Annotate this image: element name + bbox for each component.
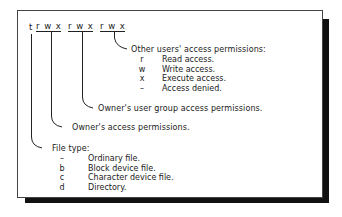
item-desc: Access denied. <box>162 84 222 94</box>
other-connector <box>115 32 128 49</box>
file-type-char: t <box>29 22 32 32</box>
owner-connector <box>52 32 63 127</box>
item-key: x <box>130 74 154 84</box>
item-desc: Write access. <box>162 65 215 75</box>
list-item: xExecute access. <box>130 74 226 84</box>
item-key: – <box>50 154 74 164</box>
item-desc: Block device file. <box>88 164 156 174</box>
item-desc: Execute access. <box>162 74 226 84</box>
list-item: –Access denied. <box>130 84 226 94</box>
other-perm-group: r w x <box>100 22 125 32</box>
list-item: dDirectory. <box>50 183 174 193</box>
item-desc: Read access. <box>162 55 214 65</box>
list-item: rRead access. <box>130 55 226 65</box>
list-item: wWrite access. <box>130 65 226 75</box>
file-type-title: File type: <box>52 144 90 154</box>
group-connector <box>83 32 94 108</box>
file-type-connector <box>32 34 43 148</box>
item-key: r <box>130 55 154 65</box>
item-key: w <box>130 65 154 75</box>
list-item: bBlock device file. <box>50 164 174 174</box>
file-type-list: –Ordinary file. bBlock device file. cCha… <box>50 154 174 192</box>
list-item: cCharacter device file. <box>50 173 174 183</box>
item-desc: Directory. <box>88 183 126 193</box>
group-perm-group: r w x <box>68 22 93 32</box>
owner-label: Owner's access permissions. <box>72 123 190 133</box>
item-key: b <box>50 164 74 174</box>
item-key: – <box>130 84 154 94</box>
item-key: d <box>50 183 74 193</box>
item-key: c <box>50 173 74 183</box>
item-desc: Character device file. <box>88 173 174 183</box>
other-users-list: rRead access. wWrite access. xExecute ac… <box>130 55 226 93</box>
item-desc: Ordinary file. <box>88 154 140 164</box>
list-item: –Ordinary file. <box>50 154 174 164</box>
group-label: Owner's user group access permissions. <box>98 104 263 114</box>
other-users-title: Other users' access permissions: <box>131 45 266 55</box>
owner-perm-group: r w x <box>36 22 61 32</box>
